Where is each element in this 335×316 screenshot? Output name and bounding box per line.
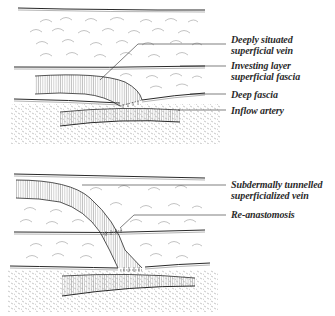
label-deeply-situated-vein: Deeply situated superficial vein <box>231 34 293 56</box>
label-subdermally-tunnelled-vein: Subdermally tunnelled superficialized ve… <box>231 179 323 201</box>
bottom-panel: Subdermally tunnelled superficialized ve… <box>0 150 335 316</box>
bottom-illustration <box>0 150 335 316</box>
label-inflow-artery: Inflow artery <box>231 105 284 116</box>
skin-surface-line <box>18 8 205 10</box>
label-investing-layer: Investing layer superficial fascia <box>231 60 300 82</box>
label-deep-fascia: Deep fascia <box>231 89 278 100</box>
skin-surface-line <box>14 174 205 178</box>
label-re-anastomosis: Re-anastomosis <box>231 209 295 220</box>
deep-fascia-line <box>10 263 210 268</box>
superficial-fascia-line <box>14 66 205 67</box>
top-panel: Deeply situated superficial vein Investi… <box>0 0 335 150</box>
superficialized-vein <box>16 180 142 268</box>
